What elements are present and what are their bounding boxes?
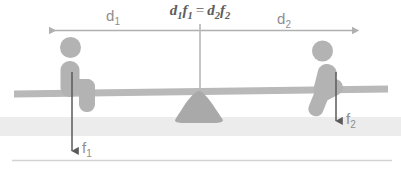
label-f1: f1 (82, 139, 92, 159)
label-d2: d2 (277, 10, 291, 30)
label-d1: d1 (106, 7, 120, 27)
diagram-canvas: d1 d2 f1 f2 d1f1=d2f2 (0, 0, 401, 169)
fulcrum (175, 91, 223, 124)
dimension-lines (49, 24, 352, 93)
right-person-head (312, 41, 333, 62)
left-person-figure (60, 37, 95, 112)
left-person-shin (79, 79, 95, 112)
torque-equation: d1f1=d2f2 (170, 2, 231, 21)
right-person-figure (306, 41, 345, 119)
left-person-head (60, 37, 81, 58)
lever-torque-diagram: d1 d2 f1 f2 d1f1=d2f2 (0, 0, 401, 169)
